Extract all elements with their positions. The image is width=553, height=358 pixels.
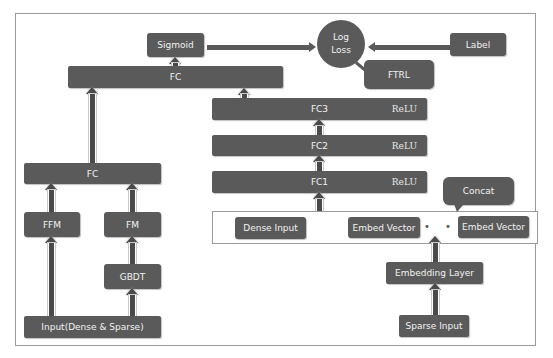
fc-left-to-fc-top-arrow — [89, 94, 96, 163]
fc2-label: FC2 — [311, 141, 328, 151]
arrow-head-left-icon — [368, 42, 375, 52]
arrow-up-icon — [126, 236, 138, 243]
input-to-gbdt-arrow — [129, 295, 136, 316]
arrow-up-icon — [126, 288, 138, 295]
arrow-up-icon — [126, 183, 138, 190]
arrow-up-icon — [45, 183, 57, 190]
arrow-head-right-icon — [309, 42, 316, 52]
concat-to-fc1-arrow — [316, 199, 323, 211]
fm-node: FM — [104, 212, 161, 237]
arrow-up-icon — [86, 87, 98, 94]
embed-vector-node-1: Embed Vector — [348, 217, 420, 238]
ffm-to-fc-arrow — [48, 190, 55, 212]
fc1-node: FC1 ReLU — [212, 171, 427, 193]
label-node: Label — [450, 33, 506, 56]
fc1-activation: ReLU — [392, 177, 417, 187]
fc1-label: FC1 — [311, 177, 328, 187]
ffm-node: FFM — [24, 212, 80, 237]
gbdt-node: GBDT — [104, 264, 161, 289]
concat-callout-pointer — [454, 204, 464, 212]
arrow-up-icon — [313, 155, 325, 162]
log-loss-line2: Loss — [331, 44, 351, 57]
sparse-to-embedding-arrow — [432, 290, 439, 315]
arrow-up-icon — [313, 119, 325, 126]
arrow-up-icon — [313, 192, 325, 199]
label-to-logloss-arrow — [375, 45, 451, 50]
fc-left-node: FC — [24, 163, 161, 184]
fc-top-node: FC — [68, 66, 283, 88]
arrow-up-icon — [45, 236, 57, 243]
fc3-activation: ReLU — [392, 104, 417, 114]
fc2-node: FC2 ReLU — [212, 135, 427, 156]
fc2-activation: ReLU — [392, 141, 417, 151]
dense-input-node: Dense Input — [235, 217, 306, 239]
gbdt-to-fm-arrow — [129, 243, 136, 264]
log-loss-node: Log Loss — [317, 20, 365, 68]
embed-vector-node-2: Embed Vector — [458, 216, 529, 238]
input-dense-sparse-node: Input(Dense & Sparse) — [24, 316, 161, 338]
fc3-label: FC3 — [311, 104, 328, 114]
embedding-layer-node: Embedding Layer — [386, 262, 483, 284]
fc3-node: FC3 ReLU — [212, 98, 427, 120]
fc1-to-fc2-arrow — [316, 162, 323, 171]
input-to-ffm-arrow — [48, 243, 55, 316]
sparse-input-node: Sparse Input — [399, 315, 469, 337]
arrow-up-icon — [429, 236, 441, 243]
ftrl-callout: FTRL — [364, 60, 434, 89]
arrow-up-icon — [429, 283, 441, 290]
concat-callout: Concat — [443, 177, 514, 205]
fc2-to-fc3-arrow — [316, 126, 323, 135]
embedding-to-vector-arrow — [432, 243, 439, 262]
log-loss-line1: Log — [333, 31, 349, 44]
sigmoid-node: Sigmoid — [147, 33, 204, 57]
fm-to-fc-arrow — [129, 190, 136, 212]
sigmoid-to-logloss-arrow — [207, 45, 309, 50]
